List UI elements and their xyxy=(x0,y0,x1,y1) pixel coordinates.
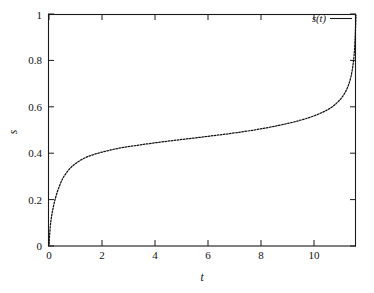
data-series-s-of-t xyxy=(49,15,356,244)
y-tick-label: 0.2 xyxy=(28,194,42,206)
x-axis-ticks xyxy=(49,14,314,246)
y-axis-title: s xyxy=(7,129,19,134)
plot-frame xyxy=(49,15,356,247)
y-tick-labels: 0 0.2 0.4 0.6 0.8 1 xyxy=(28,9,42,253)
figure-container: 0 2 4 6 8 10 0 0.2 0.4 0.6 0.8 1 t s s(t… xyxy=(0,0,374,293)
legend-label: s(t) xyxy=(312,13,327,25)
x-axis-title: t xyxy=(200,271,204,283)
y-tick-label: 0.6 xyxy=(28,101,42,113)
line-chart: 0 2 4 6 8 10 0 0.2 0.4 0.6 0.8 1 t s s(t… xyxy=(0,0,374,293)
y-tick-label: 0.8 xyxy=(28,54,42,66)
x-tick-label: 8 xyxy=(258,249,264,261)
y-axis-ticks xyxy=(48,14,356,246)
y-tick-label: 0.4 xyxy=(28,147,42,159)
y-tick-label: 0 xyxy=(37,240,43,252)
x-tick-label: 4 xyxy=(152,249,158,261)
x-tick-label: 6 xyxy=(205,249,211,261)
y-tick-label: 1 xyxy=(37,9,43,21)
x-tick-label: 0 xyxy=(46,249,52,261)
x-tick-label: 10 xyxy=(309,249,321,261)
x-tick-labels: 0 2 4 6 8 10 xyxy=(46,249,320,261)
x-tick-label: 2 xyxy=(99,249,105,261)
